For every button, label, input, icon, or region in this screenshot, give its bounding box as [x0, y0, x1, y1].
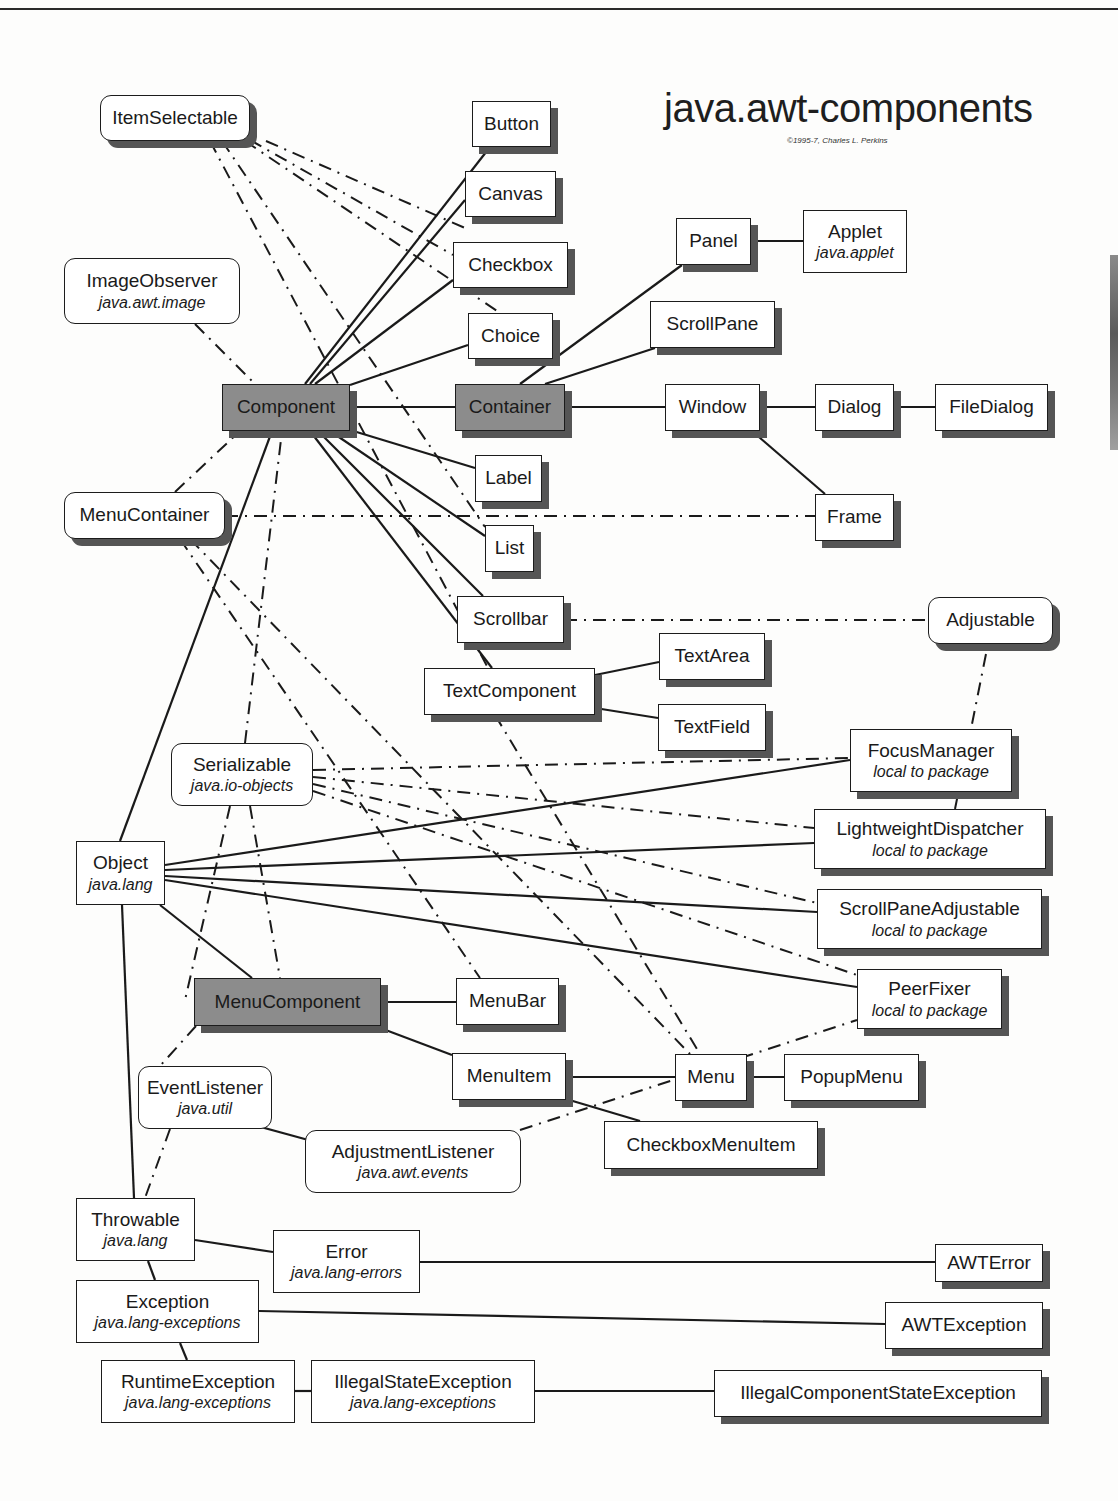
inheritance-edge-throwable-exception: [148, 1261, 155, 1280]
inheritance-edge-window-frame: [752, 431, 825, 494]
inheritance-edge-component-scrollbar: [318, 431, 483, 596]
class-node-window: Window: [665, 384, 760, 431]
node-package: java.applet: [816, 243, 893, 262]
implements-edge-serializable-focusmanager: [313, 758, 850, 770]
class-node-scroll-pane-adjustable: ScrollPaneAdjustablelocal to package: [817, 889, 1042, 949]
node-name: Frame: [827, 506, 882, 529]
class-node-list: List: [485, 525, 534, 572]
inheritance-edge-throwable-error: [195, 1240, 273, 1252]
node-name: LightweightDispatcher: [837, 818, 1024, 841]
node-name: Canvas: [478, 183, 542, 206]
class-node-checkbox-menu-item: CheckboxMenuItem: [604, 1121, 818, 1169]
node-name: RuntimeException: [121, 1371, 275, 1394]
class-node-error: Errorjava.lang-errors: [273, 1230, 420, 1293]
class-node-checkbox: Checkbox: [453, 242, 568, 288]
node-name: PeerFixer: [888, 978, 970, 1001]
class-node-panel: Panel: [676, 218, 751, 265]
class-node-menu: Menu: [675, 1054, 747, 1101]
node-name: AWTError: [947, 1252, 1031, 1275]
node-name: IllegalComponentStateException: [740, 1382, 1016, 1405]
node-package: java.awt.image: [99, 293, 206, 312]
node-name: Container: [469, 396, 551, 419]
class-node-container: Container: [455, 384, 565, 431]
class-node-label: Label: [475, 455, 542, 502]
implements-edge-eventlistener-throwable: [145, 1129, 170, 1198]
class-node-component: Component: [222, 384, 350, 431]
interface-node-menu-container: MenuContainer: [64, 492, 225, 539]
node-name: ScrollPane: [667, 313, 759, 336]
inheritance-edge-object-menucomponent: [160, 905, 252, 978]
implements-edge-serializable-component: [245, 431, 282, 743]
node-name: Scrollbar: [473, 608, 548, 631]
node-name: ScrollPaneAdjustable: [839, 898, 1020, 921]
class-node-illegal-state-exception: IllegalStateExceptionjava.lang-exception…: [311, 1360, 535, 1423]
node-package: local to package: [873, 762, 989, 781]
class-node-lightweight-dispatcher: LightweightDispatcherlocal to package: [814, 809, 1046, 869]
node-package: local to package: [872, 841, 988, 860]
implements-edge-itemselectable-canvas: [266, 141, 465, 228]
class-node-menu-bar: MenuBar: [456, 978, 559, 1025]
class-node-menu-component: MenuComponent: [194, 978, 381, 1026]
node-name: AdjustmentListener: [332, 1141, 495, 1164]
node-name: MenuBar: [469, 990, 546, 1013]
class-node-file-dialog: FileDialog: [935, 384, 1048, 431]
node-name: AWTException: [902, 1314, 1027, 1337]
inheritance-edge-component-choice: [350, 345, 468, 385]
implements-edge-menucomponent-eventlistener: [160, 1026, 196, 1066]
interface-node-adjustment-listener: AdjustmentListenerjava.awt.events: [305, 1130, 521, 1193]
node-package: java.lang-exceptions: [95, 1313, 241, 1332]
node-package: java.lang: [103, 1231, 167, 1250]
class-node-peer-fixer: PeerFixerlocal to package: [857, 969, 1002, 1029]
implements-edge-serializable-lightweightdispatcher: [313, 777, 814, 828]
node-name: Window: [679, 396, 747, 419]
inheritance-edge-exception-runtimeexception: [180, 1343, 187, 1360]
class-node-popup-menu: PopupMenu: [784, 1054, 919, 1101]
node-package: local to package: [872, 921, 988, 940]
class-node-scrollbar: Scrollbar: [457, 596, 564, 643]
node-name: ItemSelectable: [112, 107, 238, 130]
node-name: FocusManager: [868, 740, 995, 763]
class-node-canvas: Canvas: [465, 171, 556, 217]
node-name: IllegalStateException: [334, 1371, 511, 1394]
class-node-applet: Appletjava.applet: [803, 210, 907, 273]
node-name: Checkbox: [468, 254, 553, 277]
node-name: Object: [93, 852, 148, 875]
class-node-choice: Choice: [468, 313, 553, 359]
class-node-awterror: AWTError: [935, 1244, 1043, 1282]
node-package: java.lang-exceptions: [350, 1393, 496, 1412]
inheritance-edge-object-scrollpaneadjustable: [165, 876, 817, 912]
class-node-exception: Exceptionjava.lang-exceptions: [76, 1280, 259, 1343]
inheritance-edge-component-canvas: [310, 200, 465, 384]
node-name: MenuComponent: [215, 991, 361, 1014]
class-node-text-component: TextComponent: [424, 668, 595, 715]
node-name: MenuContainer: [80, 504, 210, 527]
node-name: MenuItem: [467, 1065, 551, 1088]
node-name: Component: [237, 396, 335, 419]
node-name: EventListener: [147, 1077, 263, 1100]
node-package: java.util: [178, 1099, 232, 1118]
node-name: PopupMenu: [800, 1066, 902, 1089]
node-name: TextField: [674, 716, 750, 739]
inheritance-edge-exception-awtexception: [259, 1311, 885, 1324]
node-name: Exception: [126, 1291, 209, 1314]
inheritance-edge-menucomponent-menuitem: [375, 1026, 452, 1055]
node-package: local to package: [872, 1001, 988, 1020]
node-name: TextArea: [675, 645, 750, 668]
class-node-button: Button: [472, 101, 551, 147]
node-name: CheckboxMenuItem: [627, 1134, 796, 1157]
class-node-awtexception: AWTException: [885, 1302, 1043, 1349]
diagram-title: java.awt-components: [664, 86, 1032, 131]
implements-edge-serializable-throwable: [185, 806, 230, 1000]
class-node-object: Objectjava.lang: [76, 841, 165, 905]
node-name: Dialog: [828, 396, 882, 419]
class-node-scroll-pane: ScrollPane: [650, 301, 775, 348]
node-name: FileDialog: [949, 396, 1033, 419]
interface-node-event-listener: EventListenerjava.util: [138, 1066, 272, 1129]
node-name: TextComponent: [443, 680, 576, 703]
inheritance-edge-textcomponent-textfield: [595, 708, 658, 718]
class-node-throwable: Throwablejava.lang: [76, 1198, 195, 1261]
implements-edge-imageobserver-component: [195, 324, 255, 384]
node-name: List: [495, 537, 525, 560]
node-name: Menu: [687, 1066, 735, 1089]
class-node-menu-item: MenuItem: [452, 1053, 566, 1100]
